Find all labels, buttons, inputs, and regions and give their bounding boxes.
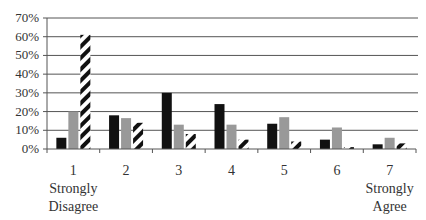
x-anchor-label: Disagree	[48, 199, 98, 214]
bar-1-cat-5	[267, 124, 277, 149]
bar-1-cat-3	[162, 93, 172, 149]
bar-2-cat-3	[174, 125, 184, 149]
x-tick-label: 6	[333, 163, 340, 178]
gridlines	[47, 18, 418, 130]
bar-3-cat-5	[291, 142, 301, 149]
bar-3-cat-1	[80, 35, 90, 149]
x-tick-label: 2	[123, 163, 130, 178]
y-tick-label: 30%	[15, 85, 39, 100]
bar-3-cat-3	[186, 134, 196, 149]
x-tick-label: 1	[70, 163, 77, 178]
bar-2-cat-7	[385, 138, 395, 149]
bar-2-cat-6	[332, 127, 342, 149]
bar-chart: 0%10%20%30%40%50%60%70% 1StronglyDisagre…	[0, 0, 426, 220]
bar-2-cat-4	[227, 125, 237, 149]
x-tick-label: 3	[175, 163, 182, 178]
y-tick-label: 0%	[22, 141, 40, 156]
bar-3-cat-7	[397, 143, 407, 149]
x-tick-label: 7	[386, 163, 393, 178]
y-axis: 0%10%20%30%40%50%60%70%	[15, 10, 47, 156]
bar-2-cat-1	[68, 112, 78, 149]
bar-1-cat-6	[320, 140, 330, 149]
bar-2-cat-5	[279, 117, 289, 149]
bar-1-cat-2	[109, 115, 119, 149]
bar-3-cat-4	[239, 140, 249, 149]
x-anchor-label: Strongly	[49, 181, 97, 196]
bar-2-cat-2	[121, 118, 131, 149]
bar-1-cat-1	[56, 138, 66, 149]
bar-3-cat-2	[133, 123, 143, 149]
bar-1-cat-4	[215, 104, 225, 149]
bars	[56, 35, 406, 149]
x-axis: 1StronglyDisagree234567StronglyAgree	[47, 149, 416, 214]
y-tick-label: 20%	[15, 104, 39, 119]
y-tick-label: 40%	[15, 66, 39, 81]
y-tick-label: 60%	[15, 29, 39, 44]
x-anchor-label: Strongly	[366, 181, 414, 196]
y-tick-label: 70%	[15, 10, 39, 25]
x-tick-label: 5	[281, 163, 288, 178]
bar-1-cat-7	[373, 144, 383, 149]
y-tick-label: 10%	[15, 122, 39, 137]
x-tick-label: 4	[228, 163, 235, 178]
y-tick-label: 50%	[15, 47, 39, 62]
x-anchor-label: Agree	[373, 199, 407, 214]
